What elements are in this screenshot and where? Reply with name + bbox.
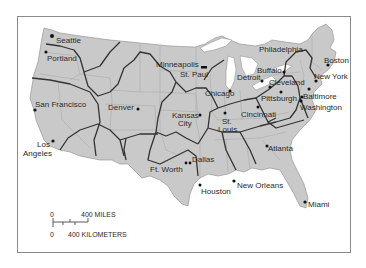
label-new-orleans: New Orleans bbox=[237, 181, 283, 190]
label-boston: Boston bbox=[324, 56, 349, 65]
city-dot-new-orleans bbox=[232, 179, 235, 182]
city-dot-ft-worth bbox=[185, 162, 188, 165]
label-houston: Houston bbox=[201, 187, 231, 196]
us-metro-regions-map: Seattle Portland San Francisco Los Angel… bbox=[0, 0, 366, 268]
label-washington: Washington bbox=[300, 103, 342, 112]
scale-km-label: 400 KILOMETERS bbox=[68, 231, 127, 238]
label-chicago: Chicago bbox=[205, 89, 235, 98]
label-cleveland: Cleveland bbox=[269, 78, 305, 87]
label-denver: Denver bbox=[108, 103, 134, 112]
label-portland: Portland bbox=[47, 54, 77, 63]
city-dot-philadelphia bbox=[308, 88, 311, 91]
label-baltimore: Baltimore bbox=[303, 92, 337, 101]
label-buffalo: Buffalo bbox=[257, 66, 282, 75]
city-dot-detroit bbox=[261, 80, 264, 83]
city-dot-st-louis bbox=[224, 112, 227, 115]
label-cincinnati: Cincinnati bbox=[241, 110, 276, 119]
label-pittsburgh: Pittsburgh bbox=[261, 94, 297, 103]
city-dot-kansas-city bbox=[199, 114, 202, 117]
city-dot-cincinnati bbox=[257, 106, 260, 109]
label-ft-worth: Ft. Worth bbox=[150, 165, 183, 174]
label-philadelphia: Philadelphia bbox=[259, 45, 303, 54]
city-dot-miami bbox=[303, 200, 306, 203]
city-dot-denver bbox=[137, 108, 140, 111]
label-st-paul: St. Paul bbox=[180, 70, 208, 79]
city-dot-dallas bbox=[189, 162, 192, 165]
label-minneapolis: Minneapolis bbox=[156, 60, 199, 69]
label-atlanta: Atlanta bbox=[268, 144, 293, 153]
label-los-angeles-2: Angeles bbox=[23, 149, 52, 158]
city-dot-seattle bbox=[50, 34, 54, 38]
city-dot-los-angeles bbox=[51, 139, 54, 142]
label-seattle: Seattle bbox=[56, 36, 81, 45]
scale-miles-zero: 0 bbox=[50, 211, 54, 218]
label-new-york: New York bbox=[314, 72, 349, 81]
label-los-angeles-1: Los bbox=[37, 140, 50, 149]
label-san-francisco: San Francisco bbox=[35, 100, 87, 109]
label-miami: Miami bbox=[308, 200, 330, 209]
label-dallas: Dallas bbox=[192, 155, 214, 164]
scale-bar: 0 400 MILES 0 400 KILOMETERS bbox=[50, 211, 127, 238]
city-dot-minneapolis-st-paul bbox=[201, 66, 207, 69]
label-st-louis-2: Louis bbox=[218, 125, 237, 134]
city-dot-buffalo bbox=[283, 71, 286, 74]
scale-miles-label: 400 MILES bbox=[81, 211, 116, 218]
label-kansas-city-2: City bbox=[178, 119, 192, 128]
scale-km-zero: 0 bbox=[50, 231, 54, 238]
